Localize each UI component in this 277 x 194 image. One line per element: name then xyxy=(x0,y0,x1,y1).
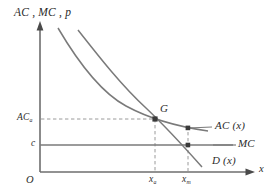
average-cost-curve xyxy=(58,28,208,131)
point-d-meets-mc-marker xyxy=(186,143,191,148)
y-tick-label-c: c xyxy=(31,139,35,149)
demand-curve xyxy=(78,30,202,167)
x-axis-arrowhead xyxy=(246,169,256,176)
x-axis-title: x xyxy=(259,164,264,175)
d-curve-label: D (x) xyxy=(212,155,236,166)
cost-demand-diagram: AC , MC , p ACa c G AC (x) MC D (x) xa x… xyxy=(0,0,277,194)
point-g-marker xyxy=(152,116,157,121)
points-group xyxy=(152,116,190,147)
x-tick-xa-sub: a xyxy=(153,179,156,185)
y-tick-ac-main: AC xyxy=(17,112,30,122)
x-tick-label-x-a: xa xyxy=(149,175,156,185)
y-axis-arrowhead xyxy=(37,21,44,31)
x-tick-label-x-m: xm xyxy=(182,175,191,185)
point-g-label: G xyxy=(160,103,168,114)
axes-group xyxy=(37,21,255,175)
y-tick-label-ac-a: ACa xyxy=(17,113,32,123)
point-ac-at-xm-marker xyxy=(186,126,191,131)
ac-curve-label: AC (x) xyxy=(215,120,245,131)
leader-line-ac xyxy=(188,127,212,128)
mc-line-label: MC xyxy=(238,138,255,149)
y-tick-ac-sub: a xyxy=(30,117,33,123)
y-axis-title: AC , MC , p xyxy=(14,7,71,19)
x-tick-xm-sub: m xyxy=(186,179,190,185)
origin-label: O xyxy=(26,175,34,186)
